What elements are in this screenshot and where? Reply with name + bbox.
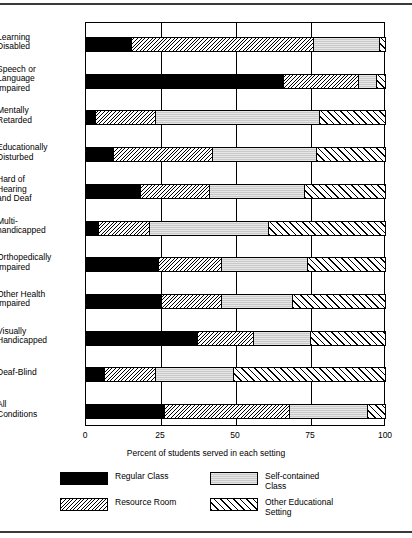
bar-segment-regular [86,74,284,89]
x-tick-label-75: 75 [295,430,325,440]
bar-segment-other [292,294,386,309]
bar-segment-regular [86,367,105,382]
bar-segment-resource [113,147,213,162]
bar-segment-selfcontained [155,110,320,125]
bar-stack [86,37,386,52]
legend-row: Regular ClassSelf-containedClass [60,472,360,491]
category-label-line: Disabled [0,42,75,52]
category-label-line: Impaired [0,263,75,273]
bar-stack [86,74,386,89]
bar-segment-resource [283,74,359,89]
top-divider-rule [0,3,412,5]
bar-segment-other [307,257,386,272]
bar-segment-regular [86,294,162,309]
category-label: MentallyRetarded [0,106,75,125]
bar-segment-other [233,367,386,382]
bar-segment-selfcontained [212,147,318,162]
legend-item-regular: Regular Class [60,472,210,491]
bar-stack [86,221,386,236]
bar-segment-selfcontained [149,221,270,236]
legend-label-resource: Resource Room [115,498,176,508]
legend-label-line: Class [265,482,319,492]
bar-segment-regular [86,331,198,346]
category-label: Deaf-Blind [0,368,75,378]
category-label-line: Handicapped [0,336,75,346]
bottom-divider-rule [0,531,412,533]
bar-segment-resource [197,331,255,346]
bar-segment-other [319,110,386,125]
bar-segment-other [268,221,386,236]
bar-segment-selfcontained [358,74,377,89]
category-label: Other HealthImpaired [0,290,75,309]
category-label: EducationallyDisturbed [0,143,75,162]
bar-segment-regular [86,257,159,272]
bar-segment-other [376,74,386,89]
legend-label-line: Setting [265,508,333,518]
bar-segment-selfcontained [209,184,306,199]
legend-label-line: Regular Class [115,472,168,482]
legend-swatch-other [210,498,258,511]
legend-label-regular: Regular Class [115,472,168,482]
bar-stack [86,367,386,382]
bar-segment-selfcontained [155,367,234,382]
bar-segment-other [367,404,386,419]
bar-segment-resource [131,37,314,52]
bar-segment-regular [86,404,165,419]
category-label-line: Conditions [0,410,75,420]
bar-segment-other [379,37,386,52]
category-label-line: Impaired [0,299,75,309]
bar-segment-resource [158,257,222,272]
category-label: Speech orLanguageImpaired [0,65,75,94]
bar-segment-selfcontained [289,404,368,419]
bar-segment-selfcontained [221,294,294,309]
legend-row: Resource RoomOther EducationalSetting [60,498,360,517]
category-label-line: Deaf-Blind [0,368,75,378]
bar-segment-regular [86,147,114,162]
bar-segment-resource [104,367,156,382]
category-label: OrthopedicallyImpaired [0,253,75,272]
plot-area [85,22,385,426]
bar-segment-other [304,184,386,199]
legend-label-selfcontained: Self-containedClass [265,472,319,491]
bar-stack [86,404,386,419]
legend-swatch-selfcontained [210,472,258,485]
category-label-line: Retarded [0,116,75,126]
chart-figure: LearningDisabledSpeech orLanguageImpaire… [0,0,412,538]
x-tick-label-50: 50 [220,430,250,440]
bar-stack [86,257,386,272]
bar-segment-selfcontained [221,257,309,272]
legend-label-other: Other EducationalSetting [265,498,333,517]
bar-stack [86,294,386,309]
bar-segment-resource [140,184,210,199]
bar-stack [86,184,386,199]
legend-swatch-resource [60,498,108,511]
x-tick-label-100: 100 [370,430,400,440]
category-label-line: Disturbed [0,153,75,163]
bar-stack [86,110,386,125]
legend-label-line: Resource Room [115,498,176,508]
bar-segment-selfcontained [253,331,311,346]
x-axis-title: Percent of students served in each setti… [0,448,412,458]
bar-segment-regular [86,37,132,52]
bar-segment-other [316,147,386,162]
legend-item-selfcontained: Self-containedClass [210,472,360,491]
category-label: Hard ofHearingand Deaf [0,175,75,204]
bar-segment-resource [164,404,291,419]
category-label: AllConditions [0,400,75,419]
legend-item-resource: Resource Room [60,498,210,517]
x-tick-label-25: 25 [145,430,175,440]
bar-segment-resource [98,221,150,236]
legend-item-other: Other EducationalSetting [210,498,360,517]
category-label-line: handicapped [0,226,75,236]
category-label: LearningDisabled [0,33,75,52]
bar-segment-selfcontained [313,37,380,52]
bar-segment-resource [161,294,222,309]
bar-stack [86,331,386,346]
bar-stack [86,147,386,162]
legend: Regular ClassSelf-containedClassResource… [60,472,360,524]
category-label-line: Impaired [0,84,75,94]
bar-segment-regular [86,184,141,199]
category-label: VisuallyHandicapped [0,327,75,346]
bar-segment-other [310,331,386,346]
category-label: Multi-handicapped [0,217,75,236]
